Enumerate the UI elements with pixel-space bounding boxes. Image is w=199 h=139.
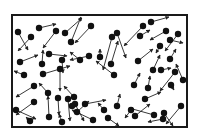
gas-particle (57, 66, 63, 72)
gas-particle (68, 39, 74, 45)
gas-particle (17, 59, 23, 65)
gas-particle (168, 82, 174, 88)
gas-particle (28, 34, 34, 40)
gas-particle (59, 119, 65, 125)
gas-particle (160, 116, 166, 122)
gas-particle (132, 113, 138, 119)
gas-particle (46, 114, 52, 120)
gas-particle (172, 69, 178, 75)
gas-particle (128, 107, 134, 113)
gas-particle (178, 103, 184, 109)
gas-particle (40, 71, 46, 77)
gas-particle (175, 31, 181, 37)
gas-particle (45, 90, 51, 96)
gas-particle (27, 118, 33, 124)
gas-particle (111, 72, 117, 78)
gas-particle (62, 30, 68, 36)
gas-particle (114, 103, 120, 109)
gas-particle (101, 107, 107, 113)
gas-particle (77, 57, 83, 63)
gas-particle (148, 19, 154, 25)
gas-particle (86, 53, 92, 59)
gas-particle (36, 25, 42, 31)
gas-particle (90, 117, 96, 123)
gas-particle (145, 85, 151, 91)
gas-particle (109, 34, 115, 40)
gas-particle (69, 103, 75, 109)
gas-particle (114, 30, 120, 36)
gas-particle (31, 99, 37, 105)
gas-particle (15, 29, 21, 35)
gas-particle (158, 67, 164, 73)
gas-particle (167, 56, 173, 62)
gas-particle (59, 57, 65, 63)
gas-particle (161, 110, 167, 116)
diagram-canvas (0, 0, 199, 139)
gas-particle (53, 28, 59, 34)
gas-particle (13, 107, 19, 113)
gas-particle (55, 95, 61, 101)
gas-particle (140, 23, 146, 29)
gas-particle (46, 51, 52, 57)
gas-particle (21, 72, 27, 78)
gas-particle (105, 115, 111, 121)
gas-particle (135, 58, 141, 64)
gas-particle (167, 37, 173, 43)
gas-particle (65, 96, 71, 102)
gas-particle (137, 33, 143, 39)
gas-particle (97, 54, 103, 60)
gas-particle (88, 23, 94, 29)
gas-particles-diagram (0, 0, 199, 139)
gas-particle (151, 112, 157, 118)
gas-particle (108, 61, 114, 67)
gas-particle (180, 77, 186, 83)
gas-particle (74, 109, 80, 115)
gas-particle (150, 67, 156, 73)
gas-particle (82, 101, 88, 107)
gas-particle (163, 28, 169, 34)
gas-particle (71, 94, 77, 100)
gas-particle (131, 82, 137, 88)
gas-particle (157, 43, 163, 49)
gas-particle (31, 83, 37, 89)
gas-particle (142, 96, 148, 102)
gas-particle (39, 61, 45, 67)
